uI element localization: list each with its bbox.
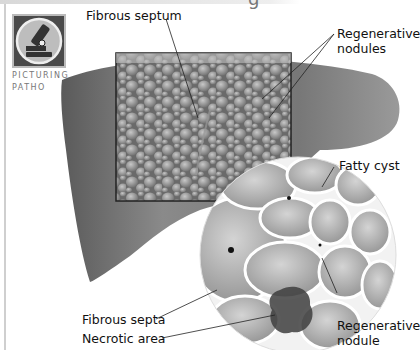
label-regenerative-nodule: Regenerative nodule: [337, 318, 420, 348]
label-fibrous-septa: Fibrous septa: [82, 312, 165, 327]
label-fibrous-septum: Fibrous septum: [86, 8, 182, 23]
necrotic-area: [270, 287, 313, 333]
label-fatty-cyst: Fatty cyst: [339, 158, 400, 173]
label-regenerative-nodules: Regenerative nodules: [337, 26, 420, 56]
label-line: nodule: [337, 333, 420, 348]
label-line: Regenerative: [337, 26, 420, 41]
label-necrotic-area: Necrotic area: [82, 331, 166, 346]
label-line: nodules: [337, 41, 420, 56]
label-line: Regenerative: [337, 318, 420, 333]
